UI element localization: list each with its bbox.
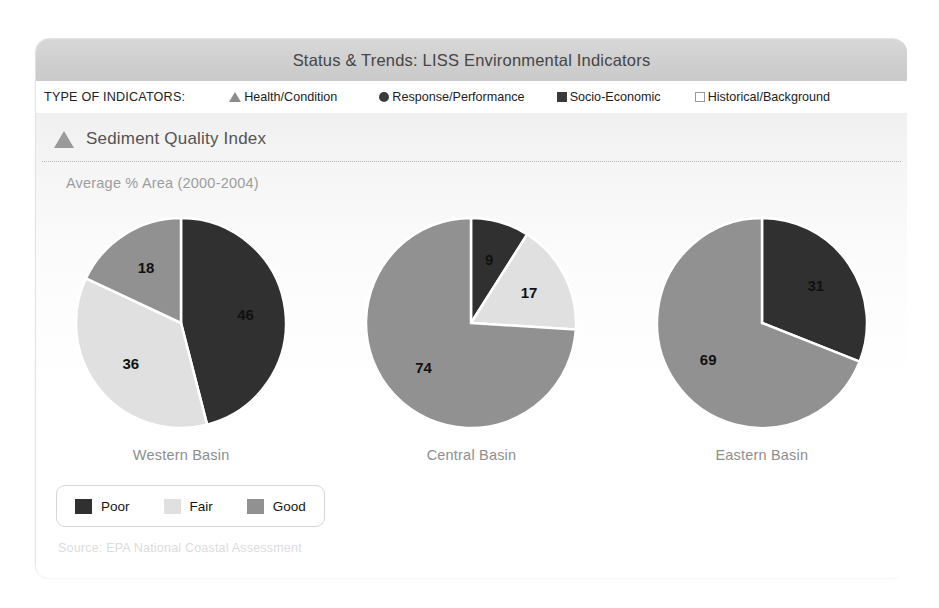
chart-western-basin: 463618 Western Basin <box>36 213 326 483</box>
pie-central-basin: 91774 <box>361 213 581 433</box>
square-filled-icon <box>557 92 567 102</box>
legend-label-poor: Poor <box>101 499 130 514</box>
pie-svg-central: 91774 <box>361 213 581 433</box>
legend-swatch-fair <box>164 499 181 514</box>
legend-entry-poor: Poor <box>75 499 130 514</box>
card-title-band: Status & Trends: LISS Environmental Indi… <box>36 39 907 81</box>
circle-icon <box>379 92 389 102</box>
pie-value-label: 17 <box>521 284 538 301</box>
legend-swatch-poor <box>75 499 92 514</box>
square-open-icon <box>695 92 705 102</box>
chart-central-basin: 91774 Central Basin <box>326 213 616 483</box>
pie-value-label: 36 <box>123 355 140 372</box>
series-legend: Poor Fair Good <box>56 485 325 527</box>
indicator-type-historical: Historical/Background <box>695 90 831 104</box>
source-note: Source: EPA National Coastal Assessment <box>58 541 302 555</box>
triangle-icon <box>54 131 74 148</box>
legend-label-fair: Fair <box>190 499 213 514</box>
legend-swatch-good <box>247 499 264 514</box>
chart-label-western-basin: Western Basin <box>133 447 230 463</box>
screenshot-root: Status & Trends: LISS Environmental Indi… <box>0 0 939 608</box>
indicator-type-response-label: Response/Performance <box>392 90 524 104</box>
pie-value-label: 31 <box>807 277 824 294</box>
section-header: Sediment Quality Index <box>54 129 266 149</box>
pie-value-label: 18 <box>138 259 155 276</box>
legend-entry-good: Good <box>247 499 306 514</box>
indicator-type-health: Health/Condition <box>229 90 337 104</box>
legend-label-good: Good <box>273 499 306 514</box>
pie-value-label: 46 <box>237 306 254 323</box>
indicator-type-socioeconomic-label: Socio-Economic <box>570 90 661 104</box>
triangle-icon <box>229 92 241 102</box>
pie-svg-eastern: 3169 <box>652 213 872 433</box>
chart-eastern-basin: 3169 Eastern Basin <box>617 213 907 483</box>
chart-label-eastern-basin: Eastern Basin <box>715 447 808 463</box>
legend-entry-fair: Fair <box>164 499 213 514</box>
indicator-type-legend: TYPE OF INDICATORS: Health/Condition Res… <box>36 81 907 113</box>
section-divider <box>42 161 901 162</box>
indicator-type-health-label: Health/Condition <box>244 90 337 104</box>
indicator-type-historical-label: Historical/Background <box>708 90 831 104</box>
indicator-type-response: Response/Performance <box>379 90 524 104</box>
indicator-type-socioeconomic: Socio-Economic <box>557 90 661 104</box>
pie-value-label: 9 <box>485 251 493 268</box>
pie-value-label: 74 <box>416 359 433 376</box>
pie-chart-group: 463618 Western Basin 91774 Central Basin… <box>36 213 907 483</box>
chart-subtitle: Average % Area (2000-2004) <box>66 175 259 191</box>
content-panel: Sediment Quality Index Average % Area (2… <box>36 113 907 578</box>
indicator-legend-caption: TYPE OF INDICATORS: <box>44 90 185 104</box>
pie-svg-western: 463618 <box>71 213 291 433</box>
section-title: Sediment Quality Index <box>86 129 266 149</box>
chart-label-central-basin: Central Basin <box>427 447 517 463</box>
pie-eastern-basin: 3169 <box>652 213 872 433</box>
pie-value-label: 69 <box>700 351 717 368</box>
indicator-card: Status & Trends: LISS Environmental Indi… <box>35 38 906 578</box>
page-title: Status & Trends: LISS Environmental Indi… <box>293 51 651 70</box>
pie-western-basin: 463618 <box>71 213 291 433</box>
